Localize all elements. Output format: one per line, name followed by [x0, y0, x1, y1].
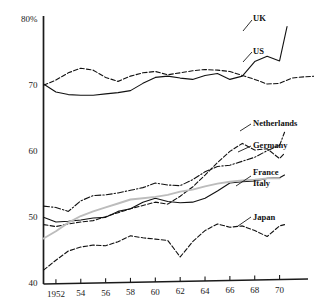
- series-label-japan: Japan: [253, 213, 275, 222]
- y-axis-tick-label: 50: [0, 213, 38, 222]
- series-line-japan: [44, 224, 285, 270]
- series-line-us: [44, 68, 315, 85]
- chart-label-leader-lines: [236, 20, 252, 226]
- x-axis-tick-label: 70: [265, 286, 295, 295]
- series-line-germany: [44, 143, 285, 226]
- label-leader-line: [238, 146, 251, 152]
- x-axis-line: [44, 279, 309, 284]
- chart-plot-area: [0, 0, 314, 308]
- series-label-netherlands: Netherlands: [253, 119, 297, 128]
- label-leader-line: [243, 52, 252, 62]
- label-leader-line: [243, 20, 252, 31]
- series-label-us: US: [253, 47, 264, 56]
- series-line-netherlands: [44, 132, 285, 211]
- y-axis-tick-label: 60: [0, 147, 38, 156]
- series-label-france: France: [253, 168, 279, 177]
- series-line-uk: [44, 27, 288, 96]
- series-label-italy: Italy: [253, 179, 270, 188]
- line-chart: 4050607080% 1952545658606264666870 UKUSN…: [0, 0, 314, 308]
- series-line-france: [44, 175, 285, 222]
- y-axis-tick-label: 70: [0, 81, 38, 90]
- series-line-italy: [44, 178, 280, 238]
- series-label-uk: UK: [253, 14, 266, 23]
- y-axis-tick-label: 40: [0, 279, 38, 288]
- series-label-germany: Germany: [253, 141, 287, 150]
- y-axis-tick-label: 80%: [0, 15, 38, 24]
- label-leader-line: [240, 124, 251, 131]
- label-leader-line: [238, 217, 251, 226]
